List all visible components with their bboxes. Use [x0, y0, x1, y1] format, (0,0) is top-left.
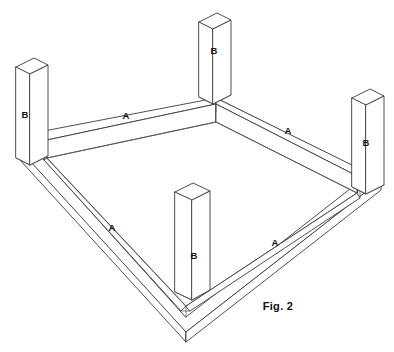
rim-side-front-left	[20, 150, 186, 342]
label-rail-bottom-left: A	[109, 222, 116, 233]
label-rail-bottom-right: A	[272, 237, 279, 248]
leg-back	[199, 13, 231, 104]
rim-side-front-right	[186, 180, 381, 342]
label-leg-back: B	[211, 45, 218, 56]
leg-front-left-face	[175, 192, 192, 300]
label-rail-top-left: A	[123, 110, 130, 121]
rail-front-right	[186, 193, 360, 311]
label-leg-right: B	[363, 137, 370, 148]
label-leg-left: B	[22, 109, 29, 120]
leg-back-front-face	[199, 22, 213, 104]
leg-front-right-face	[192, 191, 210, 300]
leg-left-side-face	[30, 65, 48, 165]
figure-caption: Fig. 2	[263, 300, 294, 312]
rail-front-right-top	[186, 193, 360, 311]
leg-back-side-face	[213, 20, 231, 104]
rail-rear-right	[216, 98, 360, 193]
figure-container: A A A A B B B B Fig. 2	[0, 0, 394, 352]
rail-rear-right-front	[216, 104, 357, 193]
label-rail-top-right: A	[285, 125, 292, 136]
rail-front-left-top	[44, 158, 186, 311]
rail-rear-left	[44, 98, 216, 158]
label-leg-front: B	[191, 250, 198, 261]
rail-rear-right-top	[216, 98, 360, 176]
leg-front	[175, 183, 210, 300]
frame-assembly-drawing: A A A A B B B B Fig. 2	[0, 0, 394, 352]
